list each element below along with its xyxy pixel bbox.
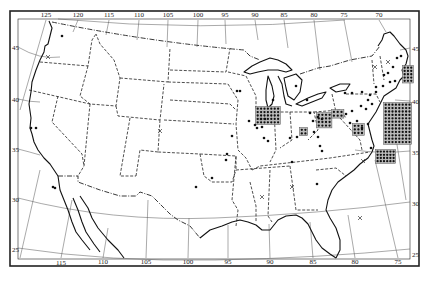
- longitude-tick-label: 110: [134, 11, 145, 19]
- longitude-tick-label: 85: [310, 258, 318, 266]
- location-dot: [317, 116, 320, 119]
- longitude-tick-label: 115: [104, 11, 115, 19]
- location-dot: [387, 72, 390, 75]
- latitude-tick-label: 25: [412, 251, 420, 259]
- location-dot: [351, 92, 354, 95]
- location-dot: [370, 147, 373, 150]
- location-dot: [261, 126, 264, 129]
- location-dot: [211, 177, 214, 180]
- location-dot: [360, 105, 363, 108]
- location-dot: [371, 103, 374, 106]
- longitude-tick-label: 95: [225, 258, 233, 266]
- location-dot: [289, 137, 292, 140]
- longitude-tick-label: 80: [311, 11, 319, 19]
- location-dot: [345, 113, 348, 116]
- location-dot: [267, 140, 270, 143]
- location-dot: [321, 150, 324, 153]
- massachusetts-grid: [403, 66, 414, 84]
- location-dot: [306, 99, 309, 102]
- cross-markers: [46, 55, 390, 220]
- illinois-grid: [256, 107, 281, 125]
- latitude-labels-left: 4540353025: [12, 44, 20, 254]
- location-dot: [236, 90, 239, 93]
- cross-marker: [260, 195, 264, 199]
- longitude-lines: [20, 20, 406, 258]
- location-dot: [256, 127, 259, 130]
- dot-markers: [30, 35, 403, 190]
- location-dot: [392, 66, 395, 69]
- longitude-tick-label: 105: [163, 11, 174, 19]
- dot-grid-markers: [256, 66, 414, 164]
- location-dot: [383, 74, 386, 77]
- location-dot: [231, 135, 234, 138]
- longitude-tick-label: 80: [352, 258, 360, 266]
- location-dot: [321, 118, 324, 121]
- location-dot: [319, 145, 322, 148]
- latitude-tick-label: 35: [12, 146, 20, 154]
- longitude-tick-label: 95: [222, 11, 230, 19]
- new-york-city-grid: [384, 103, 412, 145]
- outer-frame: [10, 11, 419, 266]
- location-dot: [248, 120, 251, 123]
- location-dot: [369, 94, 372, 97]
- location-dot: [361, 127, 364, 130]
- location-dot: [316, 183, 319, 186]
- latitude-tick-label: 25: [12, 246, 20, 254]
- location-dot: [35, 127, 38, 130]
- location-dot: [272, 99, 275, 102]
- location-dot: [365, 108, 368, 111]
- location-dot: [296, 136, 299, 139]
- location-dot: [291, 161, 294, 164]
- cross-marker: [158, 129, 162, 133]
- longitude-tick-label: 105: [141, 258, 152, 266]
- latitude-tick-label: 30: [12, 196, 20, 204]
- latitude-lines: [18, 19, 410, 260]
- location-dot: [349, 122, 352, 125]
- location-dot: [382, 85, 385, 88]
- location-dot: [396, 57, 399, 60]
- location-dot: [394, 80, 397, 83]
- location-dot: [225, 159, 228, 162]
- location-dot: [375, 91, 378, 94]
- location-dot: [61, 35, 64, 38]
- location-dot: [356, 120, 359, 123]
- international-borders: [52, 22, 380, 238]
- location-dot: [260, 118, 263, 121]
- location-dot: [344, 92, 347, 95]
- cross-marker: [386, 60, 390, 64]
- longitude-tick-label: 100: [193, 11, 204, 19]
- location-dot: [195, 186, 198, 189]
- location-dot: [254, 124, 257, 127]
- virginia-grid: [376, 150, 396, 164]
- longitude-tick-label: 100: [183, 258, 194, 266]
- location-dot: [295, 85, 298, 88]
- location-dot: [30, 127, 33, 130]
- longitude-tick-label: 90: [267, 258, 275, 266]
- pennsylvania-west-grid: [332, 110, 344, 119]
- us-distribution-map: 125120115110105100959085807570 115110105…: [0, 0, 428, 288]
- longitude-labels-top: 125120115110105100959085807570: [41, 11, 383, 19]
- longitude-tick-label: 75: [395, 258, 403, 266]
- longitude-tick-label: 115: [56, 259, 67, 267]
- latitude-tick-label: 30: [412, 200, 420, 208]
- longitude-tick-label: 75: [341, 11, 349, 19]
- inner-frame: [18, 19, 410, 259]
- location-dot: [361, 91, 364, 94]
- location-dot: [367, 123, 370, 126]
- cross-marker: [358, 216, 362, 220]
- location-dot: [312, 120, 315, 123]
- location-dot: [317, 136, 320, 139]
- latitude-tick-label: 35: [412, 149, 420, 157]
- maryland-grid: [353, 124, 365, 136]
- location-dot: [263, 137, 266, 140]
- latitude-tick-label: 40: [412, 98, 420, 106]
- cross-marker: [373, 65, 377, 69]
- location-dot: [400, 55, 403, 58]
- longitude-tick-label: 90: [252, 11, 260, 19]
- ohio-grid: [317, 113, 332, 128]
- latitude-tick-label: 40: [12, 96, 20, 104]
- location-dot: [226, 153, 229, 156]
- longitude-tick-label: 110: [98, 258, 109, 266]
- location-dot: [367, 99, 370, 102]
- longitude-tick-label: 125: [41, 11, 52, 19]
